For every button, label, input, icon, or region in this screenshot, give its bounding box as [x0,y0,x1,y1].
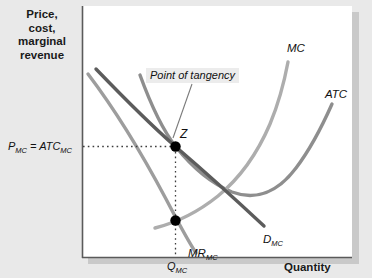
demand-label-subscript: MC [271,239,283,248]
price-equals-atc: = ATC [27,140,60,152]
tangency-callout-text: Point of tangency [150,69,235,81]
x-axis-label: Quantity [284,261,331,273]
demand-curve-label: DMC [263,233,283,248]
mc-label-text: MC [287,42,305,54]
tangency-callout: Point of tangency [146,68,239,83]
y-axis-label: Price, cost, marginal revenue [6,8,78,62]
y-axis-label-line-3: marginal [6,35,78,49]
price-subscript: MC [15,146,27,155]
quantity-symbol: Q [167,260,176,272]
z-label-text: Z [180,127,187,141]
mc-curve-label: MC [287,42,305,54]
atc-subscript: MC [60,146,72,155]
y-axis-label-line-2: cost, [6,22,78,36]
quantity-tick-label: QMC [167,260,187,275]
tangency-point-dot [170,141,180,151]
y-axis-label-line-4: revenue [6,49,78,63]
mr-mc-intersection-dot [170,215,180,225]
y-axis-label-line-1: Price, [6,8,78,22]
mr-label-subscript: MC [206,253,218,262]
mr-curve [88,74,196,253]
equilibrium-point-label: Z [180,127,187,141]
economics-diagram: Price, cost, marginal revenue Quantity P… [0,0,372,278]
quantity-subscript: MC [176,266,188,275]
mr-label-text: MR [188,247,206,259]
atc-label-text: ATC [325,88,347,100]
mr-curve-label: MRMC [188,247,218,262]
price-tick-label: PMC = ATCMC [8,140,72,155]
atc-curve-label: ATC [325,88,347,100]
